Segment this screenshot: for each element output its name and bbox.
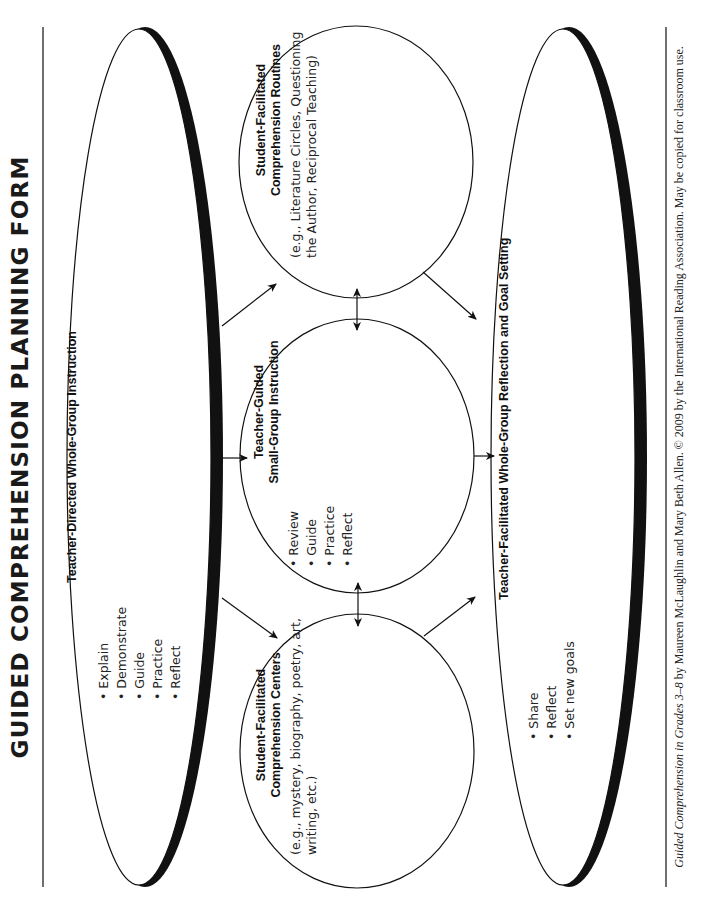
arrow-routines-to-reflection (423, 272, 476, 319)
routines-desc-2: the Author, Reciprocal Teaching) (304, 55, 319, 258)
list-item: • Practice (150, 638, 165, 700)
book-title: Guided Comprehension in Grades 3–8 (672, 682, 686, 868)
copyright-footer: Guided Comprehension in Grades 3–8 by Ma… (672, 46, 686, 868)
list-item: • Reflect (544, 685, 559, 740)
centers-desc-2: writing, etc.) (304, 776, 319, 855)
routines-heading-1: Student-Facilitated (254, 64, 268, 177)
centers-heading-1: Student-Facilitated (254, 669, 268, 782)
arrow-to-centers (222, 598, 277, 638)
page-title: GUIDED COMPREHENSION PLANNING FORM (7, 156, 33, 759)
reflection-ellipse (491, 27, 647, 887)
list-item: • Share (526, 692, 541, 740)
reflection-heading: Teacher-Facilitated Whole-Group Reflecti… (497, 238, 511, 600)
arrow-to-routines (222, 284, 276, 326)
routines-heading-2: Comprehension Routines (269, 44, 283, 196)
routines-desc-1: (e.g., Literature Circles, Questioning (288, 32, 303, 258)
centers-desc-1: (e.g., mystery, biography, poetry, art, (288, 618, 303, 855)
centers-heading-2: Comprehension Centers (269, 652, 283, 797)
small-group-heading-2: Small-Group Instruction (267, 340, 281, 483)
list-item: • Guide (304, 519, 319, 567)
footer-rest: by Maureen McLaughlin and Mary Beth Alle… (672, 46, 686, 682)
list-item: • Review (286, 511, 301, 567)
list-item: • Explain (96, 643, 111, 700)
list-item: • Set new goals (562, 641, 577, 740)
arrow-centers-to-reflection (424, 597, 475, 636)
whole-group-ellipse (67, 27, 223, 887)
whole-group-heading: Teacher-Directed Whole-Group Instruction (65, 331, 79, 583)
list-item: • Demonstrate (114, 606, 129, 700)
planning-form-diagram: GUIDED COMPREHENSION PLANNING FORM Teach… (0, 0, 703, 915)
small-group-list: • Review • Guide • Practice • Reflect (286, 505, 355, 567)
list-item: • Reflect (168, 645, 183, 700)
list-item: • Practice (322, 505, 337, 567)
small-group-heading-1: Teacher-Guided (252, 365, 266, 459)
list-item: • Reflect (340, 512, 355, 567)
list-item: • Guide (132, 652, 147, 700)
